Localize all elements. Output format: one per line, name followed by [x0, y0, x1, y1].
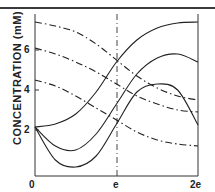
y-tick-label-4: 4 — [24, 84, 30, 95]
y-axis-label: CONCENTRATION (mM) — [11, 35, 23, 145]
y-tick-label-2: 2 — [24, 124, 30, 135]
series-line-4 — [35, 22, 198, 127]
y-tick-label-6: 6 — [24, 44, 30, 55]
x-tick-label-0: 0 — [29, 179, 35, 190]
x-tick-label-2e: 2e — [190, 179, 201, 190]
x-tick-label-e: e — [113, 179, 119, 190]
chart-plot — [0, 0, 215, 192]
